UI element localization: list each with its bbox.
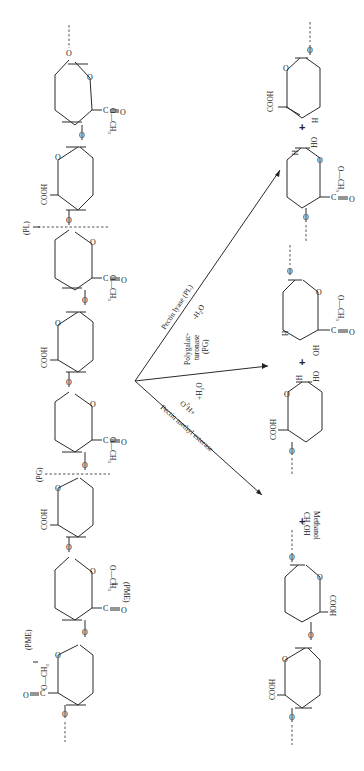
ring-oxygen: O: [282, 655, 288, 664]
ring-oxygen: O: [90, 238, 96, 247]
sugar-unit-0: [55, 60, 102, 125]
pg-site-label: (PG): [35, 467, 44, 482]
ester-o-ch3: O—CH3: [107, 437, 117, 463]
link-oxygen: O: [66, 378, 72, 387]
ester-carbon: C: [103, 436, 108, 445]
methanol-formula: CH3OH: [301, 512, 311, 536]
pme-site-label: (PME): [122, 582, 131, 603]
cooh-label: COOH: [40, 346, 49, 368]
cooh-label: COOH: [266, 90, 275, 112]
carbonyl-o: O: [23, 691, 29, 700]
ring-oxygen: O: [55, 484, 61, 493]
link-oxygen: O: [66, 216, 72, 225]
ring-oxygen: O: [87, 73, 93, 82]
ester-o-ch3: O—CH3: [335, 166, 345, 192]
pme-site-label: (PME): [24, 629, 33, 650]
pl-condition-label: -H2O: [190, 302, 207, 321]
cooh-label: COOH: [40, 183, 49, 205]
ring-oxygen: O: [317, 573, 323, 582]
ho-label: HO: [311, 345, 320, 356]
carbonyl-o: O: [121, 276, 127, 285]
link-oxygen: O: [82, 461, 88, 470]
ring-oxygen: O: [317, 156, 323, 165]
link-oxygen: O: [82, 628, 88, 637]
pme-products: + CH3OH Methanol O O COOH O O COOH O: [268, 511, 337, 745]
link-oxygen: O: [79, 131, 85, 140]
pl-site-label: (PL): [22, 221, 31, 235]
ester-carbon: C: [103, 274, 108, 283]
pl-products: O O COOH H + OH H O C O—CH3 O O: [266, 22, 355, 242]
link-oxygen: O: [308, 631, 314, 640]
link-oxygen: O: [307, 46, 313, 55]
pg-enzyme-label-1: Polygalac-: [183, 332, 192, 365]
oh-label: OH: [309, 137, 318, 148]
h-label: H: [294, 375, 303, 381]
pg-products: O O C O—CH3 O H HO + OH H O COOH O: [269, 245, 355, 475]
carbonyl-o: O: [121, 438, 127, 447]
link-oxygen: O: [62, 710, 68, 719]
link-oxygen: O: [66, 543, 72, 552]
pectin-degradation-diagram: O O C O—CH3 O O O COOH O (PL) O C: [0, 0, 364, 771]
cooh-label: COOH: [328, 595, 337, 617]
carbonyl-o: O: [349, 195, 355, 204]
plus-sign: +: [299, 356, 305, 368]
ring-oxygen: O: [55, 651, 61, 660]
substrate-chain: O O C O—CH3 O O O COOH O (PL) O C: [22, 25, 131, 742]
pg-condition-label: +H2O: [195, 382, 205, 400]
link-oxygen: O: [289, 447, 295, 456]
link-oxygen: O: [66, 49, 72, 58]
pg-enzyme-label-3: (PG): [201, 339, 210, 354]
pl-enzyme-label: Pectin lyase (PL): [159, 282, 195, 331]
cooh-label: COOH: [269, 418, 278, 440]
cooh-label: COOH: [268, 678, 277, 700]
ester-o-ch3: O—CH3: [107, 565, 117, 591]
link-oxygen: O: [287, 267, 293, 276]
ring-oxygen: O: [284, 390, 290, 399]
oh-label: OH: [311, 371, 320, 382]
ring-oxygen: O: [55, 319, 61, 328]
carbonyl-o: O: [120, 108, 126, 117]
pg-arrow: [135, 366, 268, 381]
ester-carbon: C: [103, 106, 108, 115]
ring-oxygen: O: [90, 400, 96, 409]
ester-o-ch3: O—CH3: [40, 664, 50, 690]
ester-o-ch3: O—CH3: [107, 275, 117, 301]
ring-oxygen: O: [90, 567, 96, 576]
plus-sign: +: [299, 121, 305, 133]
ring-oxygen: O: [316, 288, 322, 297]
link-oxygen: O: [303, 213, 309, 222]
cooh-label: COOH: [40, 508, 49, 530]
link-oxygen: O: [289, 713, 295, 722]
ester-carbon: C: [331, 193, 336, 202]
h-label: H: [281, 330, 290, 336]
carbonyl-o: O: [121, 606, 127, 615]
ester-o-ch3: O—CH3: [335, 295, 345, 321]
ring-oxygen: O: [55, 153, 61, 162]
methanol-name: Methanol: [312, 511, 321, 540]
pg-enzyme-label-2: turonase: [192, 334, 201, 360]
ester-carbon: C: [331, 326, 336, 335]
carbonyl-o: O: [349, 328, 355, 337]
h-label: H: [311, 117, 320, 123]
link-oxygen: O: [82, 296, 88, 305]
ring-oxygen: O: [283, 64, 289, 73]
link-oxygen: O: [289, 553, 295, 562]
ester-carbon: C: [103, 604, 108, 613]
